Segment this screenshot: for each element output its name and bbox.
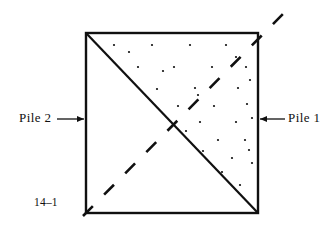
stipple-dot — [194, 87, 196, 89]
stipple-dot — [197, 94, 199, 96]
stipple-dot — [246, 103, 248, 105]
stipple-dot — [245, 66, 247, 68]
dashed-diagonal-line — [83, 14, 283, 216]
stipple-dot — [151, 44, 153, 46]
stipple-dot — [248, 149, 250, 151]
pile-2-arrow — [57, 116, 84, 122]
stipple-dot — [213, 105, 215, 107]
stipple-dot — [202, 150, 204, 152]
stipple-dot — [237, 87, 239, 89]
stipple-dot — [156, 88, 158, 90]
stipple-dot — [189, 44, 191, 46]
stipple-dot — [225, 44, 227, 46]
stipple-dot — [251, 117, 253, 119]
figure-diagram-14-1: Pile 2 Pile 1 14–1 — [0, 0, 336, 229]
pile-2-arrow-head — [77, 116, 84, 122]
pile-2-label: Pile 2 — [19, 110, 51, 126]
dashed-diagonal — [83, 14, 283, 216]
stipple-dot — [128, 51, 130, 53]
stipple-dot — [244, 139, 246, 141]
stipple-dot — [235, 121, 237, 123]
stipple-dot — [177, 105, 179, 107]
stipple-dot — [173, 66, 175, 68]
pile-1-arrow-head — [260, 116, 267, 122]
stipple-dot — [113, 44, 115, 46]
stipple-dot — [185, 130, 187, 132]
pile-1-label: Pile 1 — [288, 110, 320, 126]
stipple-dot — [137, 66, 139, 68]
stipple-dot — [231, 157, 233, 159]
stipple-dot — [251, 162, 253, 164]
stipple-dot — [221, 171, 223, 173]
stipple-dot — [239, 184, 241, 186]
stipple-dot — [199, 121, 201, 123]
figure-number-label: 14–1 — [34, 196, 58, 208]
stipple-dot — [235, 56, 237, 58]
pile-1-arrow — [260, 116, 285, 122]
stipple-dot — [249, 79, 251, 81]
stipple-dot — [217, 139, 219, 141]
stipple-dot — [211, 66, 213, 68]
stipple-dot — [162, 70, 164, 72]
